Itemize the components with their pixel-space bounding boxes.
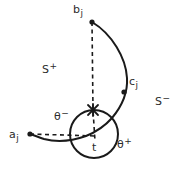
label-theta-plus-base: θ — [117, 138, 124, 151]
label-s-plus-superscript: + — [49, 61, 57, 71]
label-theta-minus-base: θ — [54, 110, 61, 123]
point-marker-bj — [89, 19, 94, 24]
label-theta-minus: θ− — [54, 109, 69, 122]
label-theta-minus-superscript: − — [61, 108, 69, 118]
label-s-minus-base: S — [155, 95, 162, 108]
label-s-plus-base: S — [42, 63, 49, 76]
label-t-base: t — [92, 141, 96, 154]
label-s-minus-superscript: − — [162, 93, 170, 103]
label-c-j: cj — [129, 76, 138, 90]
label-c-j-subscript: j — [136, 80, 139, 90]
point-marker-cj — [121, 89, 126, 94]
label-c-j-base: c — [129, 75, 135, 88]
label-b-j: bj — [73, 4, 83, 18]
dashed-vertical-line — [92, 22, 95, 141]
label-t: t — [92, 142, 96, 153]
label-a-j-subscript: j — [16, 133, 19, 143]
label-s-minus: S− — [155, 94, 170, 107]
label-b-j-subscript: j — [80, 8, 83, 18]
label-theta-plus: θ+ — [117, 137, 132, 150]
dashed-horizontal-line — [30, 134, 96, 136]
geometric-diagram: bj aj cj S+ S− θ− θ+ t — [0, 0, 180, 169]
solid-trajectory-curve — [30, 22, 127, 141]
label-a-j: aj — [9, 129, 19, 143]
diagram-canvas — [0, 0, 180, 169]
label-b-j-base: b — [73, 3, 80, 16]
label-a-j-base: a — [9, 128, 16, 141]
point-marker-aj — [27, 131, 32, 136]
label-theta-plus-superscript: + — [124, 136, 132, 146]
label-s-plus: S+ — [42, 62, 57, 75]
